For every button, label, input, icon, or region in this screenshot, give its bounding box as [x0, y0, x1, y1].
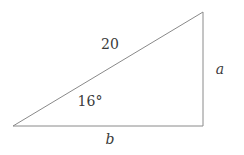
horizontal-side-label-b: b [92, 132, 128, 146]
vertical-side-label-a: a [210, 62, 230, 76]
angle-measure-label: 16° [70, 94, 110, 108]
triangle-outline [13, 12, 203, 126]
hypotenuse-length-label: 20 [92, 37, 128, 51]
triangle-figure: 20 16° a b [0, 0, 244, 155]
